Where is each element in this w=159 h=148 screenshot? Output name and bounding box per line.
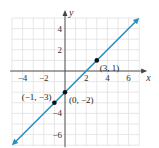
x-tick-label: 6 [126, 73, 131, 83]
point-label: (0, −2) [69, 95, 94, 105]
x-tick-label: 2 [84, 73, 89, 83]
data-point [95, 58, 100, 63]
point-label: (−1, −3) [22, 92, 52, 102]
y-tick-label: 4 [58, 24, 63, 34]
x-tick-label: −4 [18, 73, 28, 83]
y-axis-label: y [68, 7, 74, 18]
y-tick-label: 2 [58, 45, 63, 55]
x-tick-label: −2 [39, 73, 49, 83]
y-tick-label: −6 [52, 130, 62, 140]
y-axis-arrow-icon [63, 10, 68, 16]
y-tick-label: −4 [52, 108, 62, 118]
data-point [63, 90, 68, 95]
x-axis-label: x [145, 72, 151, 83]
coordinate-plane: xy−4−224642−4−6(3, 1)(0, −2)(−1, −3) [0, 0, 159, 148]
point-label: (3, 1) [100, 63, 120, 73]
x-tick-label: 4 [105, 73, 110, 83]
data-point [52, 101, 57, 106]
